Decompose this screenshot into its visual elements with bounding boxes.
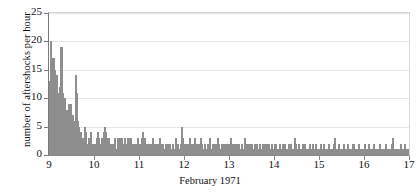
x-axis-ticks: 91011121314151617 — [0, 0, 420, 194]
x-axis-title: February 1971 — [0, 175, 420, 186]
x-tick-mark — [409, 156, 410, 160]
x-tick-mark — [184, 156, 185, 160]
x-tick-mark — [94, 156, 95, 160]
chart-root: number of aftershocks per hour 051015202… — [0, 0, 420, 194]
x-tick-mark — [139, 156, 140, 160]
x-tick-mark — [364, 156, 365, 160]
x-tick-mark — [229, 156, 230, 160]
x-tick-label: 9 — [39, 158, 59, 170]
x-tick-mark — [319, 156, 320, 160]
x-tick-mark — [274, 156, 275, 160]
